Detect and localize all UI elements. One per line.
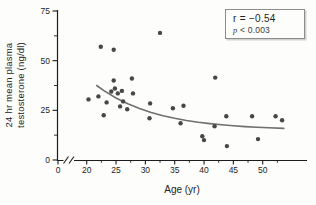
x-tick-label: 50 (258, 165, 268, 175)
data-point (256, 137, 260, 141)
data-point (102, 113, 106, 117)
data-point (148, 101, 152, 105)
data-point (224, 114, 228, 118)
data-point (181, 104, 185, 108)
data-point (225, 144, 229, 148)
data-point (178, 121, 182, 125)
data-point (109, 89, 113, 93)
data-point (202, 138, 206, 142)
trend-curve (97, 86, 284, 129)
data-point (131, 91, 135, 95)
x-tick-label: 40 (199, 165, 209, 175)
data-point (273, 114, 277, 118)
data-point (113, 86, 117, 90)
y-axis-label-line1: 24 hr mean plasma (3, 9, 15, 161)
data-point (147, 116, 151, 120)
y-tick-label: 75 (41, 6, 51, 16)
data-point (116, 91, 120, 95)
data-point (112, 48, 116, 52)
data-point (120, 89, 124, 93)
data-point (200, 134, 204, 138)
p-value-rest: < 0.003 (237, 25, 270, 35)
x-tick-label: 35 (170, 165, 180, 175)
data-point (118, 104, 122, 108)
data-point (112, 78, 116, 82)
x-tick-label: 45 (229, 165, 239, 175)
p-value-text: p < 0.003 (233, 25, 304, 35)
correlation-coefficient-text: r = −0.54 (233, 13, 304, 24)
data-point (130, 76, 134, 80)
scatter-figure: 0255075020253035404550 24 hr mean plasma… (0, 0, 316, 205)
x-tick-label: 25 (111, 165, 121, 175)
data-point (213, 75, 217, 79)
x-tick-label: 20 (82, 165, 92, 175)
stats-annotation-box: r = −0.54 p < 0.003 (225, 9, 305, 39)
x-tick-label: 30 (141, 165, 151, 175)
data-point (104, 100, 108, 104)
y-axis-label-line2: testosterone (ng/dl) (15, 9, 27, 161)
data-point (86, 97, 90, 101)
data-point (212, 124, 216, 128)
x-origin-label: 0 (56, 165, 61, 175)
data-point (280, 118, 284, 122)
data-point (125, 107, 129, 111)
y-tick-label: 50 (41, 56, 51, 66)
data-point (99, 45, 103, 49)
data-point (171, 106, 175, 110)
y-tick-label: 25 (41, 105, 51, 115)
data-point (121, 99, 125, 103)
data-point (96, 94, 100, 98)
data-point (158, 31, 162, 35)
x-axis-label: Age (yr) (57, 184, 307, 195)
data-point (250, 114, 254, 118)
y-axis-label: 24 hr mean plasma testosterone (ng/dl) (3, 9, 29, 161)
y-tick-label: 0 (45, 155, 50, 165)
